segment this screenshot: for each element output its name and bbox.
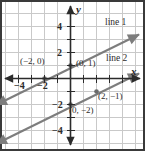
coordinate-graph-figure: y x −4 −2 4 2 −2 −4 line 1 line 2 (−2, 0…	[0, 0, 145, 151]
y-tick-label-4: 4	[57, 22, 62, 32]
point-label-0-neg2: (0, −2)	[69, 106, 94, 115]
line-1-label: line 1	[105, 18, 126, 28]
point-label-0-1: (0, 1)	[76, 59, 96, 68]
y-tick-label-neg4: −4	[52, 126, 63, 136]
x-axis-label: x	[131, 66, 137, 77]
point-label-2-neg1: (2, −1)	[98, 92, 123, 101]
y-axis-label: y	[76, 4, 81, 15]
x-tick-label-neg2: −2	[37, 81, 48, 91]
y-tick-label-2: 2	[57, 48, 62, 58]
x-tick-label-neg4: −4	[14, 81, 25, 91]
y-tick-label-neg2: −2	[52, 100, 63, 110]
point-label-neg2-0: (−2, 0)	[20, 57, 45, 66]
line-2-label: line 2	[106, 54, 127, 64]
